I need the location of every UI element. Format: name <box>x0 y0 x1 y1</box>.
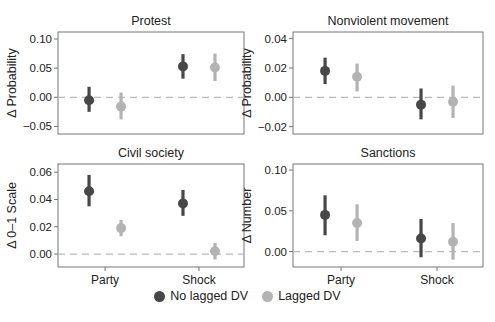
dark-dot-icon <box>154 291 165 302</box>
point-lagged-dv <box>352 218 362 228</box>
y-axis-label: Δ Probability <box>240 48 254 118</box>
panel-protest: Protest−0.050.000.050.10Δ Probability <box>5 14 244 134</box>
y-axis-label: Δ 0–1 Scale <box>5 182 19 249</box>
y-axis-label: Δ Number <box>240 188 254 244</box>
legend: No lagged DV Lagged DV <box>0 289 495 303</box>
x-tick-label-party: Party <box>327 273 355 287</box>
legend-label-lagged-dv: Lagged DV <box>278 289 341 303</box>
x-tick-label-shock: Shock <box>420 273 454 287</box>
panel-grid: Protest−0.050.000.050.10Δ ProbabilityNon… <box>0 0 495 322</box>
y-tick-label: 0.00 <box>265 246 287 258</box>
panel-civil-society: Civil society0.000.020.040.06Δ 0–1 Scale… <box>5 146 244 287</box>
panel-title: Civil society <box>118 146 185 160</box>
point-lagged-dv <box>448 237 458 247</box>
point-lagged-dv <box>210 246 220 256</box>
point-no-lagged-dv <box>416 100 426 110</box>
x-tick-label-shock: Shock <box>182 273 216 287</box>
point-lagged-dv <box>352 72 362 82</box>
y-tick-label: 0.02 <box>30 221 52 233</box>
point-lagged-dv <box>448 97 458 107</box>
point-lagged-dv <box>116 223 126 233</box>
legend-item-no-lagged-dv: No lagged DV <box>154 289 248 303</box>
y-tick-label: 0.10 <box>265 164 287 176</box>
y-tick-label: 0.04 <box>30 193 53 205</box>
y-tick-label: 0.05 <box>30 62 52 74</box>
y-tick-label: 0.00 <box>265 91 287 103</box>
panel-sanctions: Sanctions0.000.050.10Δ NumberPartyShock <box>240 146 483 287</box>
point-no-lagged-dv <box>320 210 330 220</box>
point-no-lagged-dv <box>416 234 426 244</box>
point-no-lagged-dv <box>178 61 188 71</box>
y-tick-label: 0.10 <box>30 33 52 45</box>
plot-frame <box>58 32 244 134</box>
point-lagged-dv <box>210 63 220 73</box>
y-tick-label: 0.00 <box>30 91 52 103</box>
y-tick-label: 0.02 <box>265 62 287 74</box>
point-no-lagged-dv <box>178 199 188 209</box>
panel-nonviolent-movement: Nonviolent movement−0.020.000.020.04Δ Pr… <box>240 14 483 134</box>
panel-title: Nonviolent movement <box>328 14 449 28</box>
point-no-lagged-dv <box>320 66 330 76</box>
y-axis-label: Δ Probability <box>5 48 19 118</box>
x-tick-label-party: Party <box>91 273 119 287</box>
legend-label-no-lagged-dv: No lagged DV <box>170 289 248 303</box>
y-tick-label: 0.00 <box>30 248 52 260</box>
figure: Protest−0.050.000.050.10Δ ProbabilityNon… <box>0 0 495 322</box>
point-no-lagged-dv <box>84 186 94 196</box>
panel-title: Protest <box>131 14 171 28</box>
y-tick-label: 0.06 <box>30 166 52 178</box>
y-tick-label: −0.02 <box>258 121 287 133</box>
y-tick-label: −0.05 <box>23 120 52 132</box>
y-tick-label: 0.04 <box>265 33 288 45</box>
legend-item-lagged-dv: Lagged DV <box>262 289 341 303</box>
point-no-lagged-dv <box>84 95 94 105</box>
plot-frame <box>293 32 483 134</box>
panel-title: Sanctions <box>361 146 416 160</box>
light-dot-icon <box>262 291 273 302</box>
y-tick-label: 0.05 <box>265 205 287 217</box>
point-lagged-dv <box>116 102 126 112</box>
